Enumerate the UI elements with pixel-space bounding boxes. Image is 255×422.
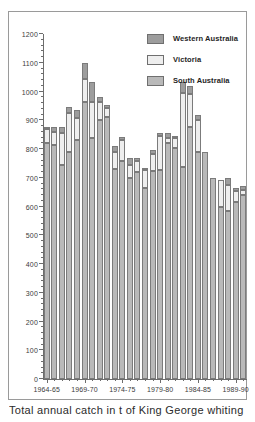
y-tick-minor xyxy=(41,56,43,57)
x-tick-label: 1974-75 xyxy=(109,386,135,393)
y-tick-major xyxy=(39,321,43,322)
y-tick-minor xyxy=(41,257,43,258)
bar-segment-south-australia xyxy=(127,178,133,379)
y-tick-minor xyxy=(41,171,43,172)
bar-segment-south-australia xyxy=(59,165,65,379)
bar-segment-victoria xyxy=(82,79,88,102)
y-tick-major xyxy=(39,263,43,264)
bar-segment-south-australia xyxy=(210,178,216,379)
bar-segment-victoria xyxy=(172,138,178,147)
bar-segment-victoria xyxy=(225,185,231,211)
bar-segment-victoria xyxy=(51,132,57,145)
bar-stack xyxy=(127,34,133,379)
y-tick-minor xyxy=(41,344,43,345)
y-tick-minor xyxy=(41,79,43,80)
y-tick-minor xyxy=(41,45,43,46)
bar-segment-western-australia xyxy=(89,82,95,102)
x-tick-label: 1989-90 xyxy=(222,386,248,393)
x-tick-minor xyxy=(213,379,214,381)
y-tick-minor xyxy=(41,96,43,97)
bar-stack xyxy=(89,34,95,379)
bar-segment-victoria xyxy=(119,140,125,160)
y-tick-minor xyxy=(41,73,43,74)
bar-segment-victoria xyxy=(89,102,95,138)
x-tick-minor xyxy=(69,379,70,381)
bar-stack xyxy=(66,34,72,379)
legend-label-south-australia: South Australia xyxy=(173,76,230,85)
y-tick-minor xyxy=(41,223,43,224)
bar-segment-south-australia xyxy=(51,145,57,379)
bar-segment-victoria xyxy=(142,170,148,188)
x-tick-major xyxy=(236,379,237,383)
x-tick-minor xyxy=(183,379,184,381)
bar-segment-south-australia xyxy=(74,140,80,379)
y-tick-label: 200 xyxy=(26,318,38,325)
bar-stack xyxy=(51,34,57,379)
bar-segment-south-australia xyxy=(202,152,208,379)
bar-segment-western-australia xyxy=(142,168,148,170)
bar-stack xyxy=(112,34,118,379)
y-tick-minor xyxy=(41,275,43,276)
y-tick-minor xyxy=(41,39,43,40)
x-tick-minor xyxy=(153,379,154,381)
bar-segment-western-australia xyxy=(82,63,88,79)
y-tick-minor xyxy=(41,252,43,253)
x-tick-minor xyxy=(92,379,93,381)
figure-container: 0100200300400500600700800900100011001200… xyxy=(0,0,255,422)
x-tick-major xyxy=(160,379,161,383)
x-tick-minor xyxy=(130,379,131,381)
y-tick-major xyxy=(39,234,43,235)
y-tick-minor xyxy=(41,125,43,126)
y-tick-minor xyxy=(41,114,43,115)
bar-segment-south-australia xyxy=(240,195,246,379)
y-tick-minor xyxy=(41,194,43,195)
x-tick-minor xyxy=(175,379,176,381)
y-tick-minor xyxy=(41,332,43,333)
bar-segment-victoria xyxy=(187,94,193,127)
bar-segment-south-australia xyxy=(97,120,103,379)
bar-segment-western-australia xyxy=(165,133,171,138)
y-tick-minor xyxy=(41,309,43,310)
chart-panel: 0100200300400500600700800900100011001200… xyxy=(8,11,247,400)
y-tick-minor xyxy=(41,85,43,86)
x-tick-minor xyxy=(115,379,116,381)
bar-segment-south-australia xyxy=(225,211,231,379)
y-tick-major xyxy=(39,33,43,34)
x-tick-major xyxy=(85,379,86,383)
y-tick-label: 0 xyxy=(34,376,38,383)
y-tick-minor xyxy=(41,355,43,356)
bar-segment-south-australia xyxy=(112,169,118,379)
bar-segment-western-australia xyxy=(233,188,239,191)
y-tick-minor xyxy=(41,183,43,184)
x-tick-major xyxy=(122,379,123,383)
x-tick-minor xyxy=(54,379,55,381)
y-tick-minor xyxy=(41,280,43,281)
y-tick-major xyxy=(39,119,43,120)
x-tick-minor xyxy=(107,379,108,381)
bar-segment-south-australia xyxy=(165,143,171,379)
bar-segment-south-australia xyxy=(104,117,110,379)
bar-segment-western-australia xyxy=(112,146,118,152)
x-tick-minor xyxy=(190,379,191,381)
bar-segment-south-australia xyxy=(187,127,193,379)
bar-segment-south-australia xyxy=(233,202,239,379)
y-tick-minor xyxy=(41,326,43,327)
bar-segment-western-australia xyxy=(240,186,246,189)
y-tick-minor xyxy=(41,131,43,132)
bar-segment-south-australia xyxy=(44,143,50,379)
bar-segment-victoria xyxy=(233,191,239,203)
chart-legend: Western Australia Victoria South Austral… xyxy=(147,30,247,93)
y-tick-minor xyxy=(41,367,43,368)
x-tick-minor xyxy=(168,379,169,381)
bar-segment-south-australia xyxy=(218,207,224,380)
x-tick-minor xyxy=(228,379,229,381)
bar-segment-victoria xyxy=(44,129,50,143)
y-tick-minor xyxy=(41,50,43,51)
bar-segment-western-australia xyxy=(74,110,80,118)
x-tick-label: 1984-85 xyxy=(185,386,211,393)
bar-segment-western-australia xyxy=(97,97,103,102)
legend-swatch-south-australia xyxy=(147,76,164,86)
bar-segment-western-australia xyxy=(119,137,125,140)
x-tick-label: 1979-80 xyxy=(147,386,173,393)
bar-segment-south-australia xyxy=(195,152,201,379)
